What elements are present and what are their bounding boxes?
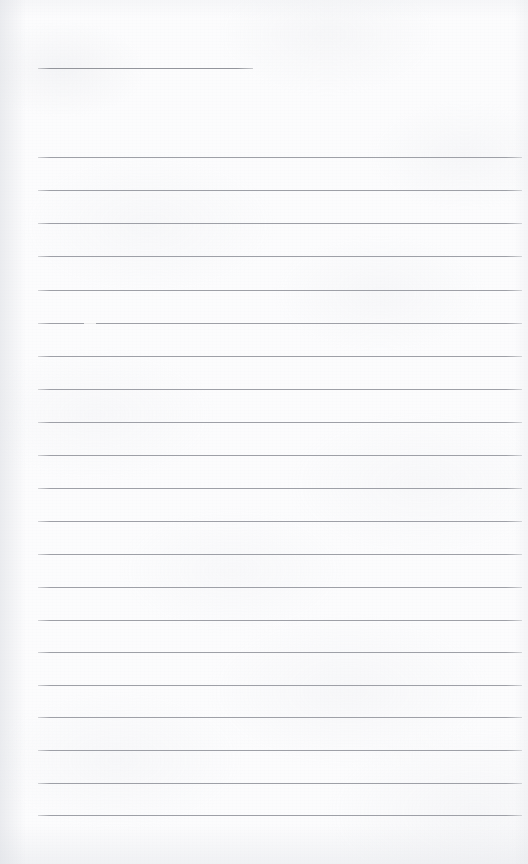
ruled-line — [38, 356, 522, 357]
title-underline-rule — [38, 68, 253, 69]
ruled-line — [38, 521, 522, 522]
ruled-line — [38, 190, 522, 191]
ruled-line — [38, 157, 522, 158]
scan-artifact-rule-break — [84, 321, 96, 324]
ruled-line — [38, 554, 522, 555]
ruled-line — [38, 323, 522, 324]
ruled-line — [38, 815, 522, 816]
ruled-line — [38, 783, 522, 784]
ruled-line — [38, 290, 522, 291]
ruled-line — [38, 422, 522, 423]
ruled-line — [38, 717, 522, 718]
ruled-line — [38, 223, 522, 224]
ruled-line — [38, 685, 522, 686]
ruled-line — [38, 488, 522, 489]
ruled-line — [38, 256, 522, 257]
ruled-line — [38, 587, 522, 588]
ruled-lines-layer — [0, 0, 528, 864]
ruled-line — [38, 750, 522, 751]
scanned-page — [0, 0, 528, 864]
ruled-line — [38, 652, 522, 653]
ruled-line — [38, 620, 522, 621]
ruled-line — [38, 455, 522, 456]
ruled-line — [38, 389, 522, 390]
